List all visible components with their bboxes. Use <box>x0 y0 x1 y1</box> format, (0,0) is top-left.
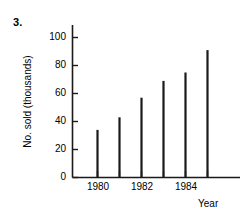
y-tick-label-100: 100 <box>36 32 66 42</box>
y-tick-label-20: 20 <box>36 144 66 154</box>
x-tick-label-1980: 1980 <box>78 182 118 192</box>
y-tick-label-0: 0 <box>36 172 66 182</box>
x-tick-label-1982: 1982 <box>122 182 162 192</box>
x-tick-marks <box>98 171 208 178</box>
x-tick-label-1984: 1984 <box>166 182 206 192</box>
chart-figure: 3. No. sold (thousands) 0 20 40 60 80 10… <box>0 0 252 219</box>
y-tick-label-40: 40 <box>36 116 66 126</box>
y-tick-marks <box>73 38 79 178</box>
y-tick-label-60: 60 <box>36 88 66 98</box>
y-tick-label-80: 80 <box>36 60 66 70</box>
chart-bars <box>98 50 208 177</box>
x-axis-title: Year <box>198 198 218 209</box>
